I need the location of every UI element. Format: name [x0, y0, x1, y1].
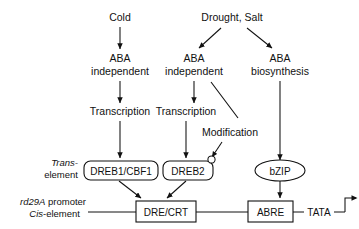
- pathway-diagram: Cold Drought, Salt ABA independent ABA i…: [0, 0, 359, 229]
- transcription-middle-label: Transcription: [156, 105, 216, 117]
- arrow-drought-to-aba-independent: [199, 28, 221, 48]
- trans-factor-bzip-label: bZIP: [269, 166, 290, 177]
- cis-element-abre-label: ABRE: [257, 207, 285, 218]
- aba-independent-cold-line2: independent: [91, 65, 149, 77]
- modification-label: Modification: [202, 126, 258, 138]
- cis-element-promoter-word: promoter: [45, 196, 86, 207]
- element-word: -element: [43, 208, 80, 219]
- arrow-dreb1-to-dre-crt: [119, 181, 141, 198]
- transcription-start-arrow-icon: [345, 198, 356, 212]
- trans-factor-dreb2-label: DREB2: [171, 166, 205, 177]
- diagram-canvas: Cold Drought, Salt ABA independent ABA i…: [0, 0, 359, 229]
- modification-site-circle-icon: [208, 156, 215, 163]
- aba-independent-drought-line1: ABA: [183, 52, 204, 64]
- tata-box-label: TATA: [307, 207, 331, 218]
- cis-element-row-label-line2: Cis-element: [29, 208, 80, 219]
- cis-element-row-label-line1: rd29A promoter: [20, 196, 86, 207]
- cis-element-gene-name: rd29A: [20, 196, 45, 207]
- stimulus-cold-label: Cold: [109, 11, 131, 23]
- transcription-left-label: Transcription: [90, 105, 150, 117]
- arrow-modification-to-dreb2-site: [212, 142, 222, 157]
- cis-word: Cis: [29, 208, 43, 219]
- aba-independent-cold-line1: ABA: [109, 52, 130, 64]
- stimulus-drought-salt-label: Drought, Salt: [201, 11, 262, 23]
- cis-element-dre-crt-label: DRE/CRT: [144, 207, 188, 218]
- aba-biosynthesis-line1: ABA: [269, 52, 290, 64]
- aba-biosynthesis-line2: biosynthesis: [251, 65, 309, 77]
- aba-independent-drought-line2: independent: [165, 65, 223, 77]
- arrow-dreb2-to-dre-crt: [167, 181, 186, 198]
- transcription-start-arrowhead-icon: [352, 195, 358, 201]
- trans-element-label-line2: element: [44, 169, 78, 180]
- trans-element-label-line1: Trans-: [51, 157, 78, 168]
- trans-factor-dreb1-label: DREB1/CBF1: [90, 166, 152, 177]
- arrow-drought-to-aba-biosynthesis: [247, 28, 272, 48]
